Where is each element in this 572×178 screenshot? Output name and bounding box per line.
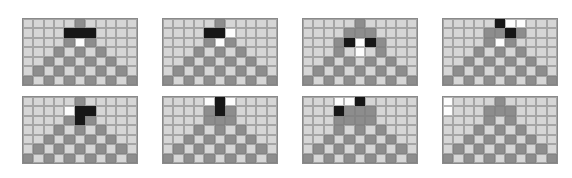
grid-cell <box>106 38 116 47</box>
grid-cell <box>116 19 126 28</box>
grid-cell <box>303 116 313 125</box>
grid-cell <box>474 106 484 115</box>
grid-cell <box>484 47 494 56</box>
grid-cell <box>547 57 557 66</box>
grid-cell <box>313 57 323 66</box>
grid-cell <box>474 135 484 144</box>
grid-cell <box>96 38 106 47</box>
grid-cell <box>324 66 334 75</box>
grid-cell <box>526 106 536 115</box>
grid-cell <box>386 66 396 75</box>
grid-cell <box>54 28 64 37</box>
grid-cell <box>184 47 194 56</box>
grid-cell <box>33 38 43 47</box>
grid-cell <box>184 76 194 85</box>
grid-cell <box>453 76 463 85</box>
grid-cell <box>75 144 85 153</box>
grid-cell <box>246 19 256 28</box>
grid-cell <box>464 144 474 153</box>
grid-cell <box>194 76 204 85</box>
grid-cell <box>344 76 354 85</box>
grid-cell <box>313 106 323 115</box>
grid-cell <box>215 154 225 163</box>
grid-cell <box>313 154 323 163</box>
grid-cell <box>54 125 64 134</box>
grid-cell <box>324 106 334 115</box>
grid-cell <box>267 125 277 134</box>
grid-cell <box>443 135 453 144</box>
grid-cell <box>215 57 225 66</box>
grid-cell <box>54 38 64 47</box>
grid-cell <box>163 76 173 85</box>
grid-cell <box>44 135 54 144</box>
grid-cell <box>355 76 365 85</box>
grid-cell <box>396 125 406 134</box>
grid-cell <box>495 106 505 115</box>
grid-cell <box>464 66 474 75</box>
grid-cell <box>236 116 246 125</box>
grid-cell <box>127 106 137 115</box>
grid-cell <box>516 125 526 134</box>
grid-cell <box>23 97 33 106</box>
grid-cell <box>313 28 323 37</box>
grid-cell <box>225 66 235 75</box>
grid-cell <box>526 66 536 75</box>
grid-cell <box>516 116 526 125</box>
grid-cell <box>173 116 183 125</box>
grid-cell <box>386 116 396 125</box>
grid-cell <box>407 47 417 56</box>
grid-cell <box>453 97 463 106</box>
grid-cell <box>396 28 406 37</box>
grid-cell <box>365 125 375 134</box>
grid-cell <box>85 97 95 106</box>
grid-cell <box>44 144 54 153</box>
grid-cell <box>324 47 334 56</box>
grid-cell <box>407 125 417 134</box>
grid-cell <box>526 76 536 85</box>
grid-cell <box>386 97 396 106</box>
grid-cell <box>396 97 406 106</box>
grid-cell <box>464 57 474 66</box>
grid-cell <box>443 144 453 153</box>
grid-cell <box>355 125 365 134</box>
grid-cell <box>474 154 484 163</box>
grid-cell <box>173 19 183 28</box>
grid-cell <box>407 38 417 47</box>
grid-cell <box>116 66 126 75</box>
grid-cell <box>116 47 126 56</box>
grid-cell <box>407 28 417 37</box>
grid-cell <box>194 154 204 163</box>
grid-cell <box>344 38 354 47</box>
grid-cell <box>443 97 453 106</box>
grid-cell <box>163 154 173 163</box>
grid-cell <box>225 19 235 28</box>
grid-cell <box>215 19 225 28</box>
grid-cell <box>495 125 505 134</box>
grid-cell <box>505 116 515 125</box>
grid-cell <box>344 144 354 153</box>
grid-cell <box>407 19 417 28</box>
grid-cell <box>225 135 235 144</box>
grid-cell <box>516 76 526 85</box>
panel-6 <box>162 96 278 164</box>
grid-cell <box>453 116 463 125</box>
grid-cell <box>407 106 417 115</box>
grid-cell <box>396 19 406 28</box>
grid-cell <box>407 154 417 163</box>
grid-cell <box>505 57 515 66</box>
grid-cell <box>505 47 515 56</box>
grid-cell <box>376 19 386 28</box>
grid-cell <box>505 144 515 153</box>
grid-cell <box>246 135 256 144</box>
grid-cell <box>303 28 313 37</box>
grid-cell <box>376 144 386 153</box>
grid-cell <box>204 106 214 115</box>
grid-cell <box>365 38 375 47</box>
grid-cell <box>536 66 546 75</box>
grid-cell <box>376 66 386 75</box>
grid-cell <box>267 38 277 47</box>
grid-cell <box>215 135 225 144</box>
grid-cell <box>267 154 277 163</box>
grid-cell <box>386 154 396 163</box>
grid-cell <box>313 19 323 28</box>
